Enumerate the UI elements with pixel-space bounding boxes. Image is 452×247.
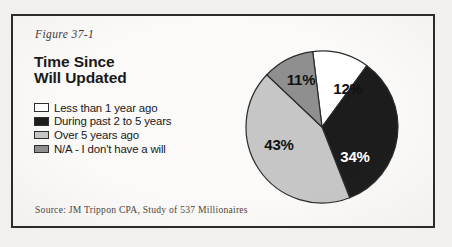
legend-item-label: During past 2 to 5 years — [54, 115, 171, 127]
figure-card: Figure 37-1 Time Since Will Updated Less… — [11, 14, 435, 228]
legend-item-label: N/A - I don't have a will — [54, 143, 166, 155]
legend-swatch-icon — [34, 145, 49, 154]
legend-item-no-will: N/A - I don't have a will — [34, 142, 234, 155]
legend-swatch-icon — [34, 117, 49, 126]
chart-title-line-2: Will Updated — [34, 70, 127, 86]
chart-title: Time Since Will Updated — [34, 54, 127, 85]
legend-item-less-than-1-year: Less than 1 year ago — [34, 101, 234, 114]
pie-slice-value-label: 43% — [264, 136, 293, 153]
chart-legend: Less than 1 year ago During past 2 to 5 … — [34, 101, 234, 156]
chart-title-line-1: Time Since — [34, 54, 127, 70]
pie-slice-value-label: 34% — [340, 148, 369, 165]
legend-item-label: Over 5 years ago — [54, 129, 139, 141]
legend-item-label: Less than 1 year ago — [54, 102, 157, 114]
legend-item-over-5-years: Over 5 years ago — [34, 129, 234, 142]
pie-chart-svg: 12%34%43%11% — [225, 30, 425, 216]
pie-chart: 12%34%43%11% — [225, 30, 425, 216]
pie-slice-value-label: 11% — [287, 71, 316, 88]
figure-label: Figure 37-1 — [35, 28, 94, 40]
source-note: Source: JM Trippon CPA, Study of 537 Mil… — [35, 204, 248, 215]
legend-swatch-icon — [34, 103, 49, 112]
pie-slice-value-label: 12% — [333, 80, 362, 97]
legend-item-past-2-to-5-years: During past 2 to 5 years — [34, 115, 234, 128]
pie-slice-group — [246, 51, 398, 203]
legend-swatch-icon — [34, 131, 49, 140]
